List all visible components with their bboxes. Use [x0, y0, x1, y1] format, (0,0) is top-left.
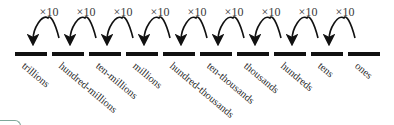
place-bar-millions [126, 52, 158, 56]
place-bar-hundred-thousands [163, 52, 195, 56]
multiplier-label: ×10 [151, 6, 170, 18]
place-label: millions [131, 60, 164, 91]
multiplier-label: ×10 [225, 6, 244, 18]
multiplier-label: ×10 [262, 6, 281, 18]
multiplier-label: ×10 [299, 6, 318, 18]
curved-arrow-icon [33, 17, 59, 40]
place-label: trillions [20, 60, 52, 89]
place-bar-trillions [15, 52, 47, 56]
curved-arrow-icon [181, 17, 207, 40]
curved-arrow-icon [144, 17, 170, 40]
curved-arrow-icon [255, 17, 281, 40]
multiplier-label: ×10 [40, 6, 59, 18]
place-label: hundred-thousands [168, 60, 236, 120]
place-label: tens [316, 60, 336, 79]
multiplier-label: ×10 [336, 6, 355, 18]
multiplier-label: ×10 [114, 6, 133, 18]
multiplier-label: ×10 [188, 6, 207, 18]
curved-arrow-icon [292, 17, 318, 40]
curved-arrow-icon [107, 17, 133, 40]
place-bar-thousands [237, 52, 269, 56]
curved-arrow-icon [218, 17, 244, 40]
place-label: hundreds [279, 60, 316, 93]
place-value-diagram: ×10×10×10×10×10×10×10×10×10 trillionshun… [0, 0, 394, 125]
place-bar-ten-millions [89, 52, 121, 56]
curved-arrow-icon [329, 17, 355, 40]
place-bar-ten-thousands [200, 52, 232, 56]
corner-accent [0, 120, 21, 125]
place-bar-tens [311, 52, 343, 56]
place-bar-hundred-millions [52, 52, 84, 56]
place-label: ones [353, 60, 375, 81]
place-bar-hundreds [274, 52, 306, 56]
curved-arrow-icon [70, 17, 96, 40]
place-bar-ones [348, 52, 380, 56]
multiplier-label: ×10 [77, 6, 96, 18]
